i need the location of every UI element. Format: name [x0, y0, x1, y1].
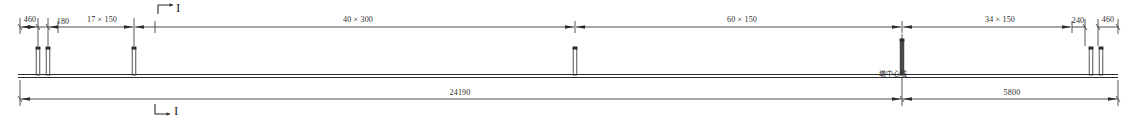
dimension-label-460-right: 460	[1102, 15, 1115, 24]
section-mark-top-label: I	[176, 1, 180, 14]
section-marker-bottom	[155, 104, 170, 116]
dimension-label-180: 180	[57, 17, 70, 26]
guardrail-post	[1089, 47, 1094, 76]
dimension-label-240: 240	[1072, 16, 1085, 25]
drawing-vector-layer	[0, 0, 1135, 124]
section-mark-bottom-label: I	[174, 104, 178, 117]
guardrail-post	[573, 47, 578, 76]
guardrail-post	[1099, 47, 1104, 76]
guardrail-post	[46, 47, 51, 76]
guardrail-post	[132, 47, 137, 76]
guardrail-post	[36, 47, 41, 76]
deck-line	[18, 75, 1118, 78]
deck-and-posts	[18, 34, 1118, 92]
dimension-label-5800: 5800	[1004, 88, 1021, 97]
dimension-label-17x150: 17 × 150	[87, 15, 117, 24]
top-dimension-band	[18, 18, 1120, 46]
top-extension-ticks	[20, 18, 1118, 46]
dimension-label-34x150: 34 × 150	[985, 15, 1015, 24]
guardrail-posts	[36, 39, 1104, 76]
section-marker-top	[158, 3, 173, 14]
dimension-label-24190: 24190	[450, 88, 471, 97]
bottom-dimension-band	[18, 80, 1120, 106]
dimension-label-40x300: 40 × 300	[343, 15, 373, 24]
bottom-extension-ticks	[20, 80, 1118, 106]
dimension-label-460-left: 460	[24, 15, 37, 24]
engineering-drawing-canvas: 460 180 17 × 150 40 × 300 60 × 150 34 × …	[0, 0, 1135, 124]
dimension-label-60x150: 60 × 150	[727, 15, 757, 24]
pier-centerline-label: 墩中心线	[879, 70, 907, 78]
